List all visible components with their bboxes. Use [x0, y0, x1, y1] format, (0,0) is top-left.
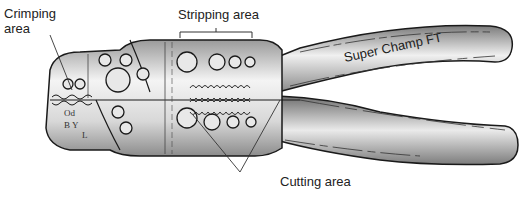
crimping-label-line-1: Crimping	[4, 6, 56, 21]
crimping-label-line-2: area	[4, 21, 56, 36]
stripping-area-label: Stripping area	[178, 7, 259, 22]
crimping-area-label: Crimping area	[4, 6, 56, 36]
pliers-illustration: Od B Y L Super Champ FT	[0, 0, 524, 202]
cutting-area-label: Cutting area	[280, 174, 351, 189]
pliers-diagram: Od B Y L Super Champ FT Crimping area St…	[0, 0, 524, 202]
stripping-bracket	[180, 28, 252, 38]
jaw-marking-3: L	[82, 130, 88, 140]
jaw-marking-1: Od	[64, 108, 75, 118]
lower-handle	[276, 96, 518, 165]
upper-handle	[270, 25, 512, 92]
jaw-marking-2: B Y	[64, 120, 79, 130]
